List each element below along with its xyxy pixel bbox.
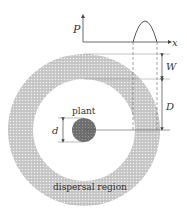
- w-label: W: [166, 61, 177, 72]
- p-axis-label: P: [72, 23, 81, 36]
- region-label: dispersal region: [53, 182, 127, 192]
- d-big-label: D: [165, 101, 174, 112]
- seed-dispersal-diagram: P x W D d plant dispersal region: [0, 0, 187, 210]
- x-axis-label: x: [172, 37, 178, 48]
- probability-curve: [133, 21, 157, 42]
- plant-label: plant: [72, 106, 96, 116]
- d-small-label: d: [52, 125, 58, 136]
